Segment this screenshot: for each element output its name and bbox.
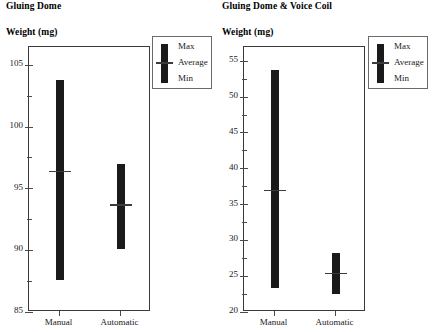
plot-area: [28, 46, 150, 311]
chart-title: Gluing Dome: [6, 1, 61, 11]
y-tick-major: [240, 204, 248, 205]
legend-label-max: Max: [394, 41, 411, 51]
x-tick: [274, 311, 275, 316]
y-axis-title: Weight (mg): [6, 27, 58, 37]
y-tick-label: 35: [215, 198, 238, 208]
y-tick-major: [25, 312, 33, 313]
y-tick-label: 100: [0, 120, 23, 130]
x-tick: [335, 311, 336, 316]
y-tick-label: 90: [0, 243, 23, 253]
legend-label-average: Average: [394, 57, 424, 67]
legend: Max Average Min: [368, 36, 428, 89]
average-mark: [325, 273, 347, 275]
y-tick-minor: [27, 219, 32, 220]
x-tick: [59, 311, 60, 316]
legend-range-bar-icon: [161, 44, 168, 83]
x-tick-label: Automatic: [85, 317, 155, 327]
legend-average-mark-icon: [156, 62, 173, 64]
y-tick-major: [25, 250, 33, 251]
legend-label-max: Max: [178, 41, 195, 51]
y-tick-minor: [242, 186, 247, 187]
average-mark: [49, 171, 71, 173]
x-tick: [120, 311, 121, 316]
y-tick-label: 20: [215, 305, 238, 315]
y-tick-major: [25, 188, 33, 189]
range-bar: [271, 70, 279, 288]
y-tick-minor: [242, 79, 247, 80]
y-tick-minor: [242, 294, 247, 295]
y-tick-major: [240, 168, 248, 169]
y-tick-major: [240, 312, 248, 313]
y-tick-major: [25, 65, 33, 66]
y-tick-label: 55: [215, 54, 238, 64]
legend-label-average: Average: [178, 57, 208, 67]
y-tick-label: 105: [0, 58, 23, 68]
y-tick-major: [240, 132, 248, 133]
y-tick-label: 45: [215, 126, 238, 136]
y-tick-label: 25: [215, 269, 238, 279]
y-tick-major: [240, 276, 248, 277]
legend: Max Average Min: [152, 36, 212, 89]
average-mark: [110, 204, 132, 206]
legend-range-bar-icon: [377, 44, 384, 83]
y-tick-label: 85: [0, 305, 23, 315]
y-tick-minor: [27, 157, 32, 158]
chart-panel-gluing-dome: Gluing Dome Weight (mg) 859095100105 Man…: [0, 0, 216, 332]
legend-average-mark-icon: [372, 62, 389, 64]
y-tick-minor: [242, 258, 247, 259]
x-tick-label: Automatic: [300, 317, 370, 327]
range-bar: [56, 80, 64, 280]
y-tick-minor: [242, 222, 247, 223]
y-tick-major: [240, 61, 248, 62]
y-axis-title: Weight (mg): [222, 27, 274, 37]
y-tick-minor: [27, 96, 32, 97]
x-tick-label: Manual: [24, 317, 94, 327]
x-tick-label: Manual: [239, 317, 309, 327]
legend-label-min: Min: [394, 73, 409, 83]
y-tick-minor: [27, 281, 32, 282]
y-tick-label: 40: [215, 162, 238, 172]
chart-title: Gluing Dome & Voice Coil: [222, 1, 332, 11]
plot-area: [243, 46, 365, 311]
y-tick-label: 30: [215, 233, 238, 243]
range-bar: [117, 164, 125, 249]
legend-label-min: Min: [178, 73, 193, 83]
y-tick-major: [25, 127, 33, 128]
y-tick-major: [240, 240, 248, 241]
y-tick-label: 95: [0, 182, 23, 192]
y-tick-minor: [242, 115, 247, 116]
y-tick-label: 50: [215, 90, 238, 100]
average-mark: [264, 190, 286, 192]
y-tick-major: [240, 97, 248, 98]
y-tick-minor: [242, 150, 247, 151]
